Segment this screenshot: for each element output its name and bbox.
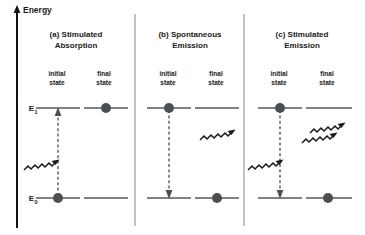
panel-c-title-line2: Emission xyxy=(284,41,320,50)
panel-a: (a) Stimulated Absorption initial state … xyxy=(24,30,128,203)
diagram-canvas: Energy E 1 E 0 (a) Stimulated Absorption… xyxy=(0,0,365,235)
energy-axis-label: Energy xyxy=(23,5,52,15)
panel-c-final-label-line2: state xyxy=(319,79,335,86)
panel-c-incoming-photon-icon xyxy=(248,160,284,171)
panel-b-outgoing-photon-icon xyxy=(200,130,236,141)
energy-tick-E1-subscript: 1 xyxy=(35,109,38,115)
energy-tick-E0-subscript: 0 xyxy=(35,199,38,205)
panel-a-final-electron xyxy=(101,103,111,113)
panel-c-final-electron xyxy=(323,193,333,203)
panel-c-initial-label-line2: state xyxy=(271,79,287,86)
panel-b-title-line2: Emission xyxy=(172,41,208,50)
panel-b: (b) Spontaneous Emission initial state f… xyxy=(147,30,239,203)
energy-tick-E1: E 1 xyxy=(29,104,38,115)
panel-b-initial-label-line1: initial xyxy=(159,70,176,77)
panel-c-initial-label-line1: initial xyxy=(270,70,287,77)
panel-c-title-line1: (c) Stimulated xyxy=(276,30,329,39)
panel-c-outgoing-photon-icon-2 xyxy=(310,123,346,134)
panel-c-final-label-line1: final xyxy=(320,70,334,77)
panel-a-final-label-line2: state xyxy=(96,79,112,86)
panel-a-initial-label-line1: initial xyxy=(48,70,65,77)
energy-axis-arrowhead xyxy=(14,5,21,13)
panel-a-incoming-photon-icon xyxy=(24,160,60,171)
energy-level-diagram: Energy E 1 E 0 (a) Stimulated Absorption… xyxy=(0,0,365,235)
panel-a-title-line1: (a) Stimulated xyxy=(50,30,103,39)
panel-b-final-label-line1: final xyxy=(209,70,223,77)
energy-tick-E0: E 0 xyxy=(29,194,38,205)
panel-b-final-label-line2: state xyxy=(208,79,224,86)
panel-c: (c) Stimulated Emission initial state fi… xyxy=(248,30,352,203)
energy-level-ticks: E 1 E 0 xyxy=(29,104,38,205)
panel-b-initial-label-line2: state xyxy=(160,79,176,86)
panel-b-title-line1: (b) Spontaneous xyxy=(158,30,222,39)
panel-a-initial-label-line2: state xyxy=(49,79,65,86)
panel-c-outgoing-photon-icon-1 xyxy=(302,133,338,144)
panel-a-final-label-line1: final xyxy=(97,70,111,77)
panel-a-title-line2: Absorption xyxy=(55,41,98,50)
panel-b-final-electron xyxy=(212,193,222,203)
